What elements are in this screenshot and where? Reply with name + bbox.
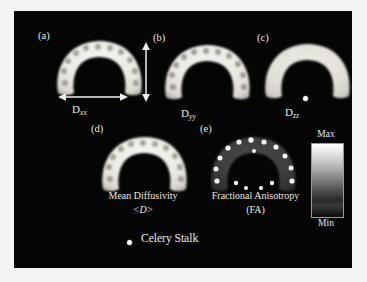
figure-root: (a) (0, 0, 367, 282)
dyy-label: Dyy (181, 108, 196, 121)
panel-tag-a: (a) (38, 31, 50, 42)
dxx-label: Dxx (72, 104, 87, 117)
mean-diffusivity-map (97, 133, 193, 197)
dti-dzz-map (260, 40, 352, 104)
dyy-label-subscript: yy (189, 112, 196, 121)
figure-black-panel: (a) (14, 11, 352, 268)
dxx-measurement-arrow (58, 91, 128, 103)
colorbar-max-label: Max (301, 130, 351, 140)
dyy-label-base: D (181, 107, 189, 119)
colorbar-min-label: Min (301, 219, 351, 229)
fractional-anisotropy-caption: Fractional Anisotropy (178, 191, 333, 201)
fiducial-marker-icon (303, 96, 308, 101)
dxx-label-base: D (72, 103, 80, 115)
dzz-label-base: D (285, 106, 293, 118)
fractional-anisotropy-map (206, 133, 302, 197)
figure-caption: Celery Stalk (141, 233, 198, 245)
dti-dyy-map (160, 41, 256, 105)
dzz-label-subscript: zz (293, 111, 299, 120)
fiducial-marker-caption-icon (127, 240, 132, 245)
dyy-measurement-arrow (140, 42, 152, 102)
dxx-label-subscript: xx (80, 108, 87, 117)
grayscale-colorbar (311, 143, 344, 218)
fractional-anisotropy-abbrev: (FA) (178, 205, 333, 215)
dzz-label: Dzz (285, 107, 299, 120)
